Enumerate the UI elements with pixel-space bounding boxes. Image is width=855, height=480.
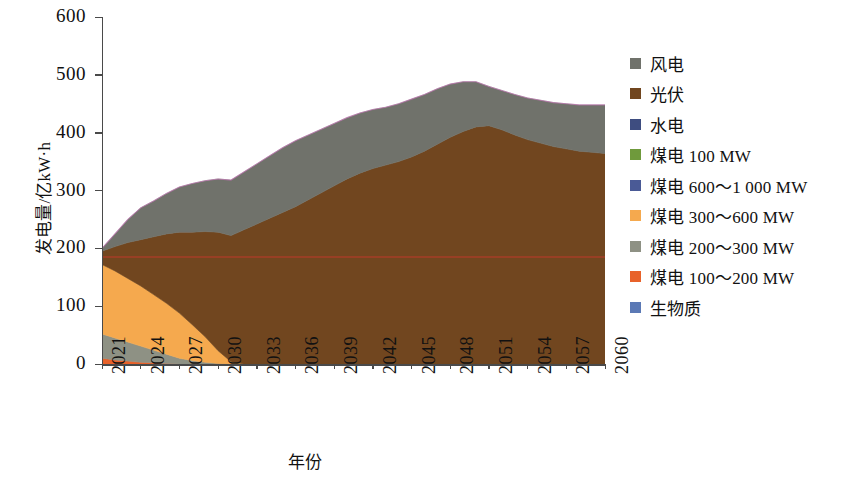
legend-item[interactable]: 煤电 100～200 MW	[630, 262, 850, 293]
y-tick-label: 0	[40, 352, 86, 374]
legend-label: 生物质	[650, 295, 702, 320]
x-tick-label: 2039	[341, 336, 362, 374]
legend-item[interactable]: 煤电 100 MW	[630, 140, 850, 171]
x-axis-tick	[102, 364, 103, 369]
legend-label: 煤电 600～1 000 MW	[650, 173, 807, 198]
x-axis-tick	[372, 364, 373, 369]
y-tick-label: 500	[40, 63, 86, 85]
y-axis-tick	[95, 74, 102, 75]
x-axis-tick	[256, 364, 257, 369]
legend-swatch	[630, 88, 641, 99]
y-axis-tick	[95, 248, 102, 249]
legend-swatch	[630, 58, 641, 69]
legend-label: 煤电 300～600 MW	[650, 203, 794, 228]
x-tick-label: 2030	[225, 336, 246, 374]
y-axis-line	[102, 17, 103, 364]
x-tick-label: 2042	[380, 336, 401, 374]
x-tick-label: 2045	[419, 336, 440, 374]
legend-swatch	[630, 210, 641, 221]
legend-label: 风电	[650, 51, 684, 76]
x-tick-label: 2024	[148, 336, 169, 374]
legend-swatch	[630, 302, 641, 313]
x-axis-title: 年份	[0, 448, 610, 473]
x-axis-tick	[334, 364, 335, 369]
x-tick-label: 2033	[264, 336, 285, 374]
legend-item[interactable]: 煤电 200～300 MW	[630, 231, 850, 262]
legend-label: 煤电 100 MW	[650, 142, 751, 167]
x-tick-label: 2048	[457, 336, 478, 374]
plot-area	[102, 17, 605, 364]
x-axis-tick	[140, 364, 141, 369]
x-tick-label: 2021	[109, 336, 130, 374]
legend-item[interactable]: 生物质	[630, 292, 850, 323]
x-tick-label: 2051	[496, 336, 517, 374]
stacked-area-plot	[102, 17, 605, 364]
y-axis-tick	[95, 132, 102, 133]
legend-item[interactable]: 煤电 300～600 MW	[630, 201, 850, 232]
y-axis-tick	[95, 190, 102, 191]
x-axis-tick	[179, 364, 180, 369]
legend-label: 光伏	[650, 81, 684, 106]
x-tick-label: 2054	[535, 336, 556, 374]
legend-label: 煤电 200～300 MW	[650, 234, 794, 259]
x-tick-label: 2036	[302, 336, 323, 374]
legend-swatch	[630, 271, 641, 282]
x-axis-tick	[566, 364, 567, 369]
y-tick-label: 400	[40, 121, 86, 143]
y-tick-label: 200	[40, 236, 86, 258]
y-tick-label: 300	[40, 179, 86, 201]
legend-item[interactable]: 光伏	[630, 79, 850, 110]
y-axis-tick	[95, 17, 102, 18]
legend: 风电光伏水电煤电 100 MW煤电 600～1 000 MW煤电 300～600…	[630, 48, 850, 323]
legend-label: 煤电 100～200 MW	[650, 264, 794, 289]
x-axis-tick	[411, 364, 412, 369]
legend-item[interactable]: 煤电 600～1 000 MW	[630, 170, 850, 201]
x-axis-tick	[295, 364, 296, 369]
x-axis-tick	[605, 364, 606, 369]
y-tick-label: 100	[40, 294, 86, 316]
y-tick-label: 600	[40, 5, 86, 27]
legend-item[interactable]: 风电	[630, 48, 850, 79]
x-axis-tick	[218, 364, 219, 369]
x-axis-tick	[488, 364, 489, 369]
legend-swatch	[630, 241, 641, 252]
y-axis-tick	[95, 306, 102, 307]
legend-swatch	[630, 119, 641, 130]
x-tick-label: 2057	[573, 336, 594, 374]
x-tick-label: 2027	[186, 336, 207, 374]
legend-item[interactable]: 水电	[630, 109, 850, 140]
x-tick-label: 2060	[612, 336, 633, 374]
legend-label: 水电	[650, 112, 684, 137]
x-axis-tick	[527, 364, 528, 369]
x-axis-tick	[450, 364, 451, 369]
legend-swatch	[630, 180, 641, 191]
legend-swatch	[630, 149, 641, 160]
figure: 发电量/亿kW·h 6005004003002001000 2021202420…	[0, 0, 855, 480]
